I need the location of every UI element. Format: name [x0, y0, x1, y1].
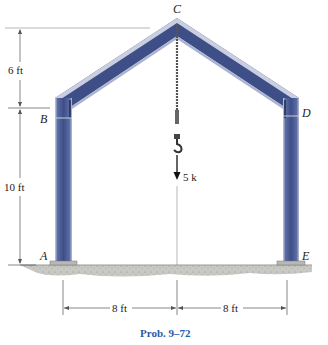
ground: [20, 265, 312, 277]
base-plate-a: [50, 261, 77, 265]
figure-caption: Prob. 9–72: [140, 327, 191, 339]
label-c: C: [173, 2, 182, 16]
load-label: 5 k: [183, 171, 197, 183]
label-d: D: [301, 106, 311, 120]
rafter-right: [177, 18, 299, 116]
chain-hook: [174, 24, 182, 152]
column-right: [277, 98, 305, 265]
dim-8ft-right: 8 ft: [223, 302, 238, 314]
rafter-left: [55, 18, 177, 116]
frame-diagram: 5 k C B D A E 6 ft 10 ft 8 ft 8 f: [0, 0, 328, 345]
dimension-horizontal: [63, 280, 287, 315]
label-a: A: [39, 249, 48, 263]
hook-icon: [174, 139, 182, 152]
label-b: B: [40, 112, 48, 126]
base-plate-e: [277, 261, 305, 265]
dim-8ft-left: 8 ft: [112, 302, 127, 314]
column-left: [50, 98, 77, 265]
dim-10ft: 10 ft: [4, 181, 24, 193]
load-arrow: 5 k: [174, 155, 198, 265]
dim-6ft: 6 ft: [8, 64, 23, 76]
label-e: E: [301, 249, 310, 263]
